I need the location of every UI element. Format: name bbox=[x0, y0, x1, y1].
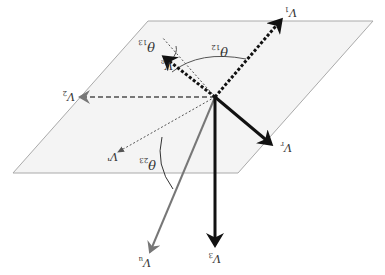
vector-diagram: V1 Ve V2 V' Vr V3 Vu θ12 θ13 θ23 bbox=[0, 0, 385, 275]
label-v2: V2 bbox=[63, 89, 75, 103]
label-v3: V3 bbox=[209, 251, 221, 265]
label-v1: V1 bbox=[285, 5, 297, 19]
label-vprime: V' bbox=[107, 150, 118, 163]
label-v: Vr bbox=[280, 140, 292, 154]
label-vu: Vu bbox=[138, 255, 151, 269]
